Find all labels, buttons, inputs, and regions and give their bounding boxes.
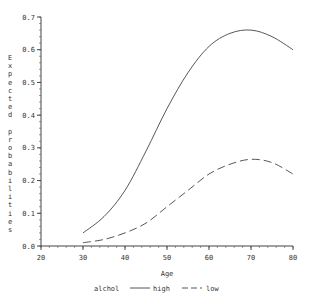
y-tick-label: 0.6 [22, 46, 35, 54]
y-tick-label: 0.5 [22, 79, 35, 87]
x-axis-label: Age [161, 270, 174, 278]
x-tick-label: 60 [205, 254, 213, 262]
y-tick-label: 0.4 [22, 112, 35, 120]
legend-label-low: low [206, 285, 219, 293]
y-axis-label-char: p [8, 70, 12, 78]
axes: 203040506070800.00.10.20.30.40.50.60.7 [22, 14, 297, 263]
x-tick-label: 40 [121, 254, 129, 262]
legend: alcholhighlow [94, 285, 219, 293]
y-axis-label-char: o [8, 144, 12, 152]
x-tick-label: 20 [37, 254, 45, 262]
x-tick-label: 30 [79, 254, 87, 262]
y-axis-label-char: s [8, 226, 12, 234]
y-axis-label-char: e [8, 79, 12, 87]
y-axis-label-char: E [8, 54, 12, 62]
x-tick-label: 50 [163, 254, 171, 262]
y-axis-label-char: t [8, 201, 12, 209]
y-axis-label-char: i [8, 193, 12, 201]
legend-label-high: high [153, 285, 170, 293]
legend-title: alchol [94, 285, 119, 293]
y-tick-label: 0.3 [22, 144, 35, 152]
series-lines [83, 30, 293, 243]
line-low [83, 159, 293, 242]
y-tick-label: 0.2 [22, 177, 35, 185]
y-tick-label: 0.1 [22, 210, 35, 218]
y-axis-label-char: x [8, 62, 12, 70]
y-tick-label: 0.7 [22, 14, 35, 22]
x-tick-label: 70 [247, 254, 255, 262]
y-axis-label-char: t [8, 95, 12, 103]
y-tick-label: 0.0 [22, 243, 35, 251]
y-axis-label-char: r [8, 136, 12, 144]
y-axis-label-char: b [8, 152, 12, 160]
y-axis-label-char: i [8, 177, 12, 185]
y-axis-label-char: d [8, 111, 12, 119]
y-axis-label-char: b [8, 169, 12, 177]
y-axis-label-char: l [8, 185, 12, 193]
y-axis-label-char: e [8, 103, 12, 111]
chart: 203040506070800.00.10.20.30.40.50.60.7 A… [0, 0, 311, 301]
y-axis-label-char: p [8, 128, 12, 136]
y-axis-label-char: e [8, 218, 12, 226]
y-axis-label-char: c [8, 87, 12, 95]
line-high [83, 30, 293, 233]
x-tick-label: 80 [289, 254, 297, 262]
y-axis-label-char: i [8, 210, 12, 218]
y-axis-label-char: a [8, 160, 12, 168]
